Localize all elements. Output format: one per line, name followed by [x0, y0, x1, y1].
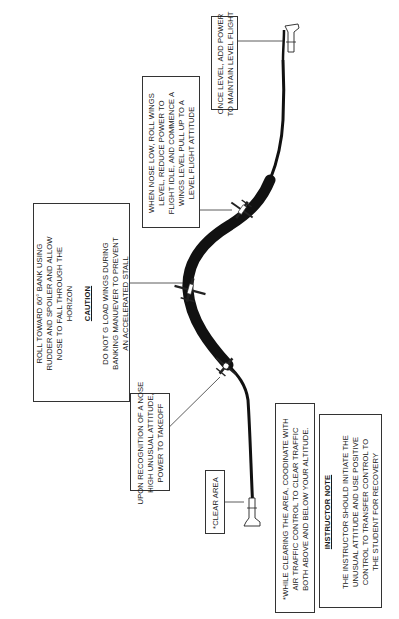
callout-text: *WHILE CLEARING THE AREA, COODINATE WITH — [281, 418, 291, 600]
callout-text: LEVEL, REDUCE POWER TO — [157, 100, 167, 205]
callout-text: BOTH ABOVE AND BELOW YOUR ALTITUDE. — [301, 427, 311, 591]
roll-toward-callout: ROLL TOWARD 60° BANK USING RUDDER AND SP… — [33, 203, 130, 402]
nose-high-callout: UPON RECOGNITION OF A NOSE HIGH UNUSUAL … — [130, 393, 170, 491]
callout-text: AIR TRAFFIC CONTROL TO CLEAR TRAFFIC — [291, 427, 301, 590]
aircraft-level-icon — [285, 24, 299, 52]
callout-text: CONTROL TO TRANSFER CONTROL TO — [361, 439, 371, 585]
caution-text: BANKING MANUEVER TO PREVENT — [111, 237, 121, 369]
instructor-note-callout: INSTRUCTOR NOTE THE INSTRUCTOR SHOULD IN… — [319, 414, 382, 608]
aircraft-start-icon — [244, 498, 260, 526]
instructor-note-heading: INSTRUCTOR NOTE — [323, 475, 333, 549]
callout-text: RUDDER AND SPOILER AND ALLOW — [45, 236, 55, 370]
callout-text: TO MAINTAIN LEVEL FLIGHT — [226, 11, 236, 116]
callout-text: UPON RECOGNITION OF A NOSE — [136, 382, 146, 505]
caution-text: AN ACCELERATED STALL — [121, 256, 131, 351]
callout-text: LEVEL FLIGHT ATTITUDE — [187, 107, 197, 200]
callout-text: THE INSTRUCTOR SHOULD INITIATE THE — [341, 435, 351, 589]
callout-text: HIGH UNUSUAL ATTITUDE, — [146, 393, 156, 493]
callout-text: FLIGHT IDLE, AND COMMENCE A — [167, 92, 177, 214]
callout-text: THE STUDENT FOR RECOVERY — [371, 453, 381, 571]
callout-text: HORIZON — [65, 286, 75, 322]
callout-text: *CLEAR AREA — [211, 477, 221, 529]
callout-text: WHEN NOSE LOW, ROLL WINGS — [147, 93, 157, 213]
callout-text: POWER TO TAKEOFF — [156, 403, 166, 482]
callout-text: UNUSUAL ATTITUDE AND USE POSITIVE — [351, 437, 361, 587]
while-clearing-callout: *WHILE CLEARING THE AREA, COODINATE WITH… — [275, 403, 315, 613]
callout-text: NOSE TO FALL THROUGH THE — [55, 247, 65, 360]
once-level-callout: ONCE LEVEL, ADD POWER TO MAINTAIN LEVEL … — [211, 16, 238, 110]
nose-low-callout: WHEN NOSE LOW, ROLL WINGS LEVEL, REDUCE … — [142, 76, 200, 228]
callout-text: WINGS LEVEL PULL UP TO A — [177, 100, 187, 206]
callout-text: ONCE LEVEL, ADD POWER — [216, 14, 226, 114]
callout-text: ROLL TOWARD 60° BANK USING — [35, 244, 45, 364]
caution-heading: CAUTION — [83, 286, 93, 321]
caution-text: DO NOT G LOAD WINGS DURING — [101, 242, 111, 365]
clear-area-callout: *CLEAR AREA — [205, 470, 225, 534]
